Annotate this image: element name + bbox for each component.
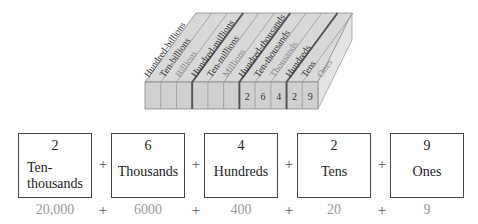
front-digit: 9	[308, 91, 313, 102]
box-digit: 9	[391, 138, 463, 154]
box-digit: 4	[205, 138, 277, 154]
place-line-2: thousands	[27, 176, 91, 192]
plus-sign: +	[96, 202, 110, 219]
place-value-block: Hundred-billionsTen-billionsBillionsHund…	[0, 0, 478, 130]
expanded-box-ten-thousands: 2 Ten- thousands	[18, 133, 92, 198]
plus-sign: +	[375, 202, 389, 219]
expanded-value: 20,000	[18, 202, 92, 218]
plus-sign: +	[189, 202, 203, 219]
expanded-value: 6000	[111, 202, 185, 218]
box-digit: 6	[112, 138, 184, 154]
box-place-label: Ones	[391, 164, 463, 180]
front-digit: 4	[276, 91, 281, 102]
box-digit: 2	[19, 138, 91, 154]
front-digit: 2	[245, 91, 250, 102]
box-place-label: Ten- thousands	[27, 160, 91, 192]
box-digit: 2	[298, 138, 370, 154]
box-place-label: Hundreds	[205, 164, 277, 180]
box-place-label: Tens	[298, 164, 370, 180]
expanded-value: 400	[204, 202, 278, 218]
box-place-label: Thousands	[112, 164, 184, 180]
plus-sign: +	[189, 156, 203, 173]
expanded-value: 9	[390, 202, 464, 218]
expanded-value: 20	[297, 202, 371, 218]
plus-sign: +	[282, 202, 296, 219]
expanded-box-hundreds: 4 Hundreds	[204, 133, 278, 198]
front-digit: 6	[260, 91, 265, 102]
expanded-box-thousands: 6 Thousands	[111, 133, 185, 198]
plus-sign: +	[282, 156, 296, 173]
place-line-1: Ten-	[27, 160, 91, 176]
front-digit: 2	[292, 91, 297, 102]
plus-sign: +	[375, 156, 389, 173]
expanded-box-tens: 2 Tens	[297, 133, 371, 198]
plus-sign: +	[96, 156, 110, 173]
expanded-box-ones: 9 Ones	[390, 133, 464, 198]
